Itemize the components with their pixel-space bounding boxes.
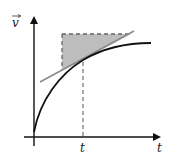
diagram-svg: v t t (0, 0, 173, 158)
t-axis-label: t (157, 141, 162, 155)
velocity-time-diagram: v t t (0, 0, 173, 158)
t-tick-label: t (80, 141, 85, 155)
v-axis-label: v (12, 15, 21, 31)
svg-text:v: v (12, 16, 19, 30)
velocity-curve (34, 43, 151, 132)
